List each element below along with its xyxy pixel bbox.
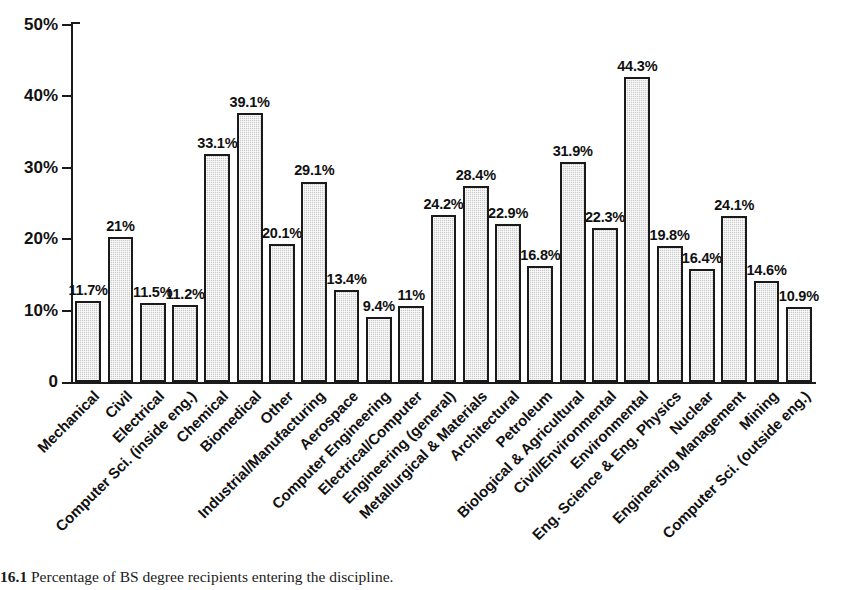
bar-value-label: 14.6% xyxy=(746,263,786,278)
x-axis-category-label: Architectural xyxy=(447,388,522,463)
bar xyxy=(334,290,360,382)
bar-value-label: 22.3% xyxy=(585,210,625,225)
x-axis-category-label: Engineering Management xyxy=(610,388,748,526)
y-axis-tick-label: 10% xyxy=(2,302,58,319)
bar-value-label: 13.4% xyxy=(327,272,367,287)
bar xyxy=(754,281,780,382)
caption-text: Percentage of BS degree recipients enter… xyxy=(31,568,393,585)
bar xyxy=(172,305,198,382)
bar-value-label: 16.4% xyxy=(682,251,722,266)
bar-value-label: 24.1% xyxy=(714,198,754,213)
x-axis-category-label: Biomedical xyxy=(197,388,263,454)
figure-container: 010%20%30%40%50% 11.7%21%11.5%11.2%33.1%… xyxy=(0,0,853,590)
bar-value-label: 39.1% xyxy=(230,95,270,110)
bar xyxy=(237,113,263,382)
figure-caption: 16.1 Percentage of BS degree recipients … xyxy=(0,568,853,586)
x-axis-category-label: Aerospace xyxy=(296,388,360,452)
bar-value-label: 10.9% xyxy=(779,289,819,304)
bar xyxy=(624,77,650,382)
x-axis-category-label: Computer Engineering xyxy=(269,388,393,512)
bar-value-label: 11% xyxy=(397,288,425,303)
x-axis-category-label: Biological & Agricultural xyxy=(454,388,586,520)
caption-number: 16.1 xyxy=(0,568,27,585)
x-axis-category-label: Other xyxy=(257,388,296,427)
bar xyxy=(592,228,618,382)
bar-value-label: 9.4% xyxy=(363,299,395,314)
bar xyxy=(689,269,715,382)
bar-value-label: 28.4% xyxy=(456,168,496,183)
x-axis-category-label: Metallurgical & Materials xyxy=(356,388,489,521)
x-axis-category-label: Civil xyxy=(101,388,134,421)
x-axis-category-label: Mining xyxy=(736,388,780,432)
bar xyxy=(560,162,586,382)
bar-value-label: 22.9% xyxy=(488,206,528,221)
bar xyxy=(204,154,230,382)
bar-value-label: 24.2% xyxy=(423,197,463,212)
y-axis-tick-label: 40% xyxy=(2,87,58,104)
y-axis-tick-label: 20% xyxy=(2,230,58,247)
bar-value-label: 29.1% xyxy=(294,163,334,178)
y-axis-tick xyxy=(62,167,72,169)
bar xyxy=(108,237,134,382)
bar-value-label: 19.8% xyxy=(650,228,690,243)
bar-value-label: 20.1% xyxy=(262,226,302,241)
y-axis-top-cap xyxy=(71,22,80,24)
x-axis-category-label: Chemical xyxy=(174,388,231,445)
bar xyxy=(398,306,424,382)
x-axis-category-label: Environmental xyxy=(568,388,651,471)
bar xyxy=(269,244,295,382)
bar-value-label: 31.9% xyxy=(553,144,593,159)
y-axis-tick xyxy=(62,24,72,26)
y-axis-tick xyxy=(62,95,72,97)
y-axis-tick xyxy=(62,238,72,240)
x-axis-category-label: Engineering (general) xyxy=(339,388,457,506)
x-axis-category-label: Electrical/Computer xyxy=(315,388,424,497)
plot-area: 11.7%21%11.5%11.2%33.1%39.1%20.1%29.1%13… xyxy=(72,25,815,382)
bar xyxy=(463,186,489,382)
bar xyxy=(657,246,683,382)
y-axis-tick-label: 50% xyxy=(2,16,58,33)
bar-value-label: 44.3% xyxy=(617,59,657,74)
x-axis-category-label: Computer Sci. (inside eng.) xyxy=(53,388,199,534)
bar xyxy=(527,266,553,382)
bar-value-label: 11.7% xyxy=(68,283,107,298)
bar-value-label: 11.2% xyxy=(165,287,204,302)
bar xyxy=(301,182,327,383)
x-axis-category-label: Industrial/Manufacturing xyxy=(195,388,328,521)
bar-value-label: 16.8% xyxy=(520,248,560,263)
x-axis-line xyxy=(62,382,816,384)
x-axis-category-label: Petroleum xyxy=(492,388,554,450)
y-axis-tick-label: 0 xyxy=(2,373,58,390)
y-axis-tick-labels: 010%20%30%40%50% xyxy=(0,0,58,590)
bar xyxy=(75,301,101,382)
bar xyxy=(140,303,166,382)
bar-value-label: 33.1% xyxy=(197,136,237,151)
bar-value-label: 21% xyxy=(106,219,134,234)
y-axis-tick-label: 30% xyxy=(2,159,58,176)
x-axis-category-label: Computer Sci. (outside eng.) xyxy=(660,388,813,541)
x-axis-category-label: Electrical xyxy=(109,388,166,445)
x-axis-category-label: Civil/Environmental xyxy=(510,388,618,496)
bar xyxy=(786,307,812,382)
bar xyxy=(495,224,521,382)
x-axis-category-label: Nuclear xyxy=(667,388,716,437)
bar xyxy=(431,215,457,382)
bar xyxy=(721,216,747,382)
x-axis-category-label: Eng. Science & Eng. Physics xyxy=(529,388,683,542)
bar xyxy=(366,317,392,382)
y-axis-tick xyxy=(62,310,72,312)
